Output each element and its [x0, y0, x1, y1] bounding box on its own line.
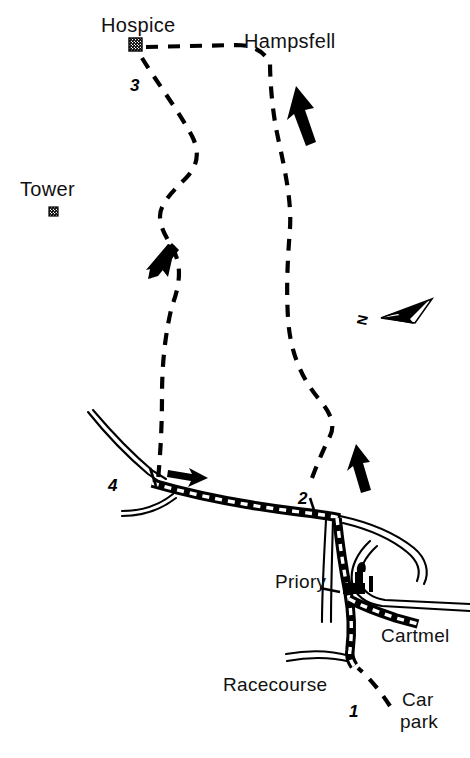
- waypoint-number-3: 3: [130, 76, 140, 95]
- waypoint-number-4: 4: [107, 476, 118, 495]
- label-cartmel: Cartmel: [381, 625, 450, 646]
- label-hospice: Hospice: [101, 14, 175, 36]
- label-tower: Tower: [20, 178, 75, 200]
- map-canvas: N Hospice Hampsfell Tower Priory Cartmel…: [0, 0, 470, 758]
- label-car-park-line-2: park: [400, 711, 438, 732]
- label-racecourse: Racecourse: [223, 674, 327, 695]
- waypoint-number-1: 1: [349, 702, 358, 721]
- label-hampsfell: Hampsfell: [244, 30, 336, 52]
- waypoint-number-2: 2: [297, 489, 308, 508]
- hospice-marker-icon: [129, 38, 142, 51]
- label-car-park-line-1: Car: [402, 689, 434, 710]
- label-priory: Priory: [275, 571, 327, 592]
- map-container: N Hospice Hampsfell Tower Priory Cartmel…: [0, 0, 470, 758]
- tower-marker-icon: [49, 207, 58, 216]
